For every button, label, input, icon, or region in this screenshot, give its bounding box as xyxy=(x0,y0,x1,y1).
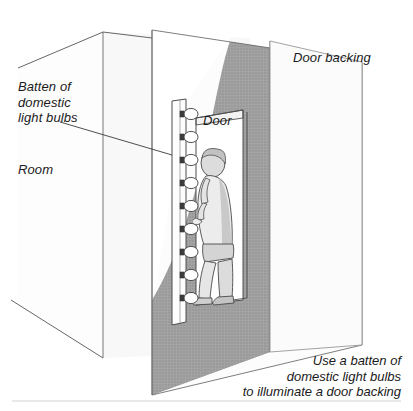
person-leg-front xyxy=(218,259,233,299)
batten-board xyxy=(172,99,186,325)
label-room: Room xyxy=(18,162,53,178)
figure-caption: Use a batten of domestic light bulbs to … xyxy=(243,353,401,400)
label-door-backing: Door backing xyxy=(293,50,371,66)
illustration-figure: Batten of domestic light bulbs Room Door… xyxy=(0,0,413,411)
backing-right-face xyxy=(270,41,362,352)
label-batten-of-domestic-light-bulbs: Batten of domestic light bulbs xyxy=(18,79,78,126)
label-door: Door xyxy=(203,113,232,129)
